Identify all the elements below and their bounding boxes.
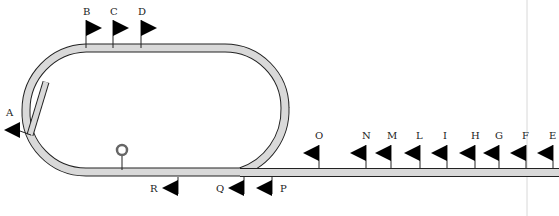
flag-icon (141, 20, 157, 36)
flag-m: M (375, 130, 397, 169)
flag-label: C (110, 6, 118, 17)
flag-icon (86, 20, 102, 36)
flag-label: B (83, 6, 90, 17)
flag-label: O (315, 130, 323, 141)
flag-e: E (537, 130, 556, 169)
ring-marker-icon (117, 145, 127, 170)
flag-c: C (110, 6, 129, 48)
flag-icon (537, 145, 553, 161)
flag-label: F (522, 130, 529, 141)
flag-g: G (483, 130, 503, 169)
flag-label: L (416, 130, 423, 141)
flag-label: M (387, 130, 397, 141)
flag-icon (228, 180, 244, 196)
flag-label: G (495, 130, 503, 141)
flag-label: E (549, 130, 556, 141)
flag-icon (510, 145, 526, 161)
track-diagram: ABCDONMLIHGFERQP (0, 0, 559, 216)
flag-label: N (362, 130, 371, 141)
track-straight (240, 168, 559, 177)
flag-label: I (443, 130, 447, 141)
flag-icon (431, 145, 447, 161)
flag-icon (459, 145, 475, 161)
flag-d: D (138, 6, 157, 48)
flag-label: H (471, 130, 480, 141)
flag-p: P (256, 177, 287, 196)
flag-q: Q (216, 177, 244, 196)
flag-icon (162, 180, 178, 196)
track-loop (26, 48, 285, 172)
flag-o: O (303, 130, 323, 169)
flag-n: N (350, 130, 371, 169)
flag-label: Q (216, 183, 224, 194)
flag-icon (404, 145, 420, 161)
flag-label: D (138, 6, 146, 17)
flag-icon (113, 20, 129, 36)
flag-label: A (5, 107, 14, 118)
flag-b: B (83, 6, 102, 48)
flag-l: L (404, 130, 423, 169)
flag-icon (350, 145, 366, 161)
flag-label: R (150, 183, 158, 194)
flag-icon (303, 145, 319, 161)
flag-f: F (510, 130, 529, 169)
flag-icon (483, 145, 499, 161)
flag-h: H (459, 130, 480, 169)
flag-r: R (150, 177, 178, 196)
flag-icon (4, 122, 20, 138)
flag-icon (375, 145, 391, 161)
flag-i: I (431, 130, 447, 169)
flag-label: P (280, 183, 287, 194)
flag-icon (256, 180, 272, 196)
